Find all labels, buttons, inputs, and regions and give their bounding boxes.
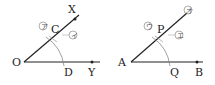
label-b: B bbox=[195, 66, 203, 79]
point-b bbox=[196, 61, 199, 64]
label-x: X bbox=[68, 3, 76, 16]
label-a: A bbox=[117, 56, 127, 69]
label-y: Y bbox=[87, 66, 96, 79]
mark-a-text: ア bbox=[41, 23, 48, 31]
label-o: O bbox=[12, 56, 21, 69]
mark-i-text: イ bbox=[71, 32, 78, 40]
point-y bbox=[91, 61, 94, 64]
figure-right: A B P Q ウ エ オ bbox=[117, 6, 203, 79]
label-d: D bbox=[64, 66, 73, 79]
mark-o-text: オ bbox=[186, 7, 193, 15]
label-c: C bbox=[51, 23, 59, 36]
figure-left: O X Y C D ア イ bbox=[12, 3, 100, 79]
label-p: P bbox=[157, 23, 165, 36]
label-q: Q bbox=[170, 66, 179, 79]
point-x bbox=[74, 18, 77, 21]
mark-u-text: ウ bbox=[146, 23, 153, 31]
mark-e-text: エ bbox=[177, 32, 184, 40]
angle-construction-diagram: O X Y C D ア イ A B P Q ウ エ オ bbox=[0, 0, 215, 85]
